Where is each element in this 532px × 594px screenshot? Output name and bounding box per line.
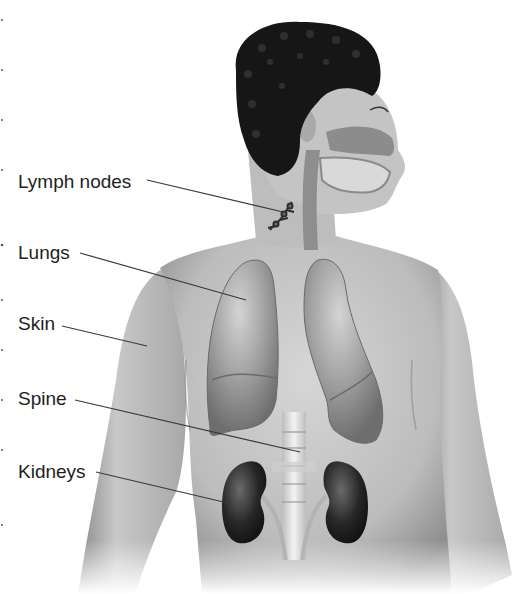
label-spine: Spine [18, 389, 67, 408]
scan-edge-artifact [0, 0, 6, 594]
label-kidneys: Kidneys [18, 462, 86, 481]
label-skin: Skin [18, 314, 55, 333]
anatomy-diagram: Lymph nodes Lungs Skin Spine Kidneys [0, 0, 532, 594]
label-lungs: Lungs [18, 243, 70, 262]
label-lymph-nodes: Lymph nodes [18, 172, 131, 191]
anatomy-illustration [0, 0, 532, 594]
